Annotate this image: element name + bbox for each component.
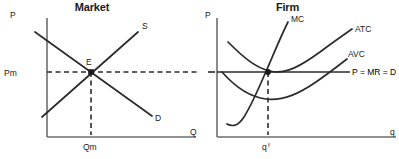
marginal-cost-curve xyxy=(227,22,288,126)
equilibrium-point-marker xyxy=(88,69,94,75)
firm-quantity-tick-label: qf xyxy=(262,142,270,152)
market-price-tick-label: Pm xyxy=(4,68,17,78)
supply-curve-label: S xyxy=(142,21,148,31)
average-total-cost-curve xyxy=(228,29,352,72)
average-total-cost-label: ATC xyxy=(355,24,371,34)
average-variable-cost-curve xyxy=(222,59,347,99)
firm-y-axis-label: P xyxy=(205,10,211,20)
firm-panel: Firm P q qf MC ATC xyxy=(200,0,399,159)
market-panel: Market P Q Pm Qm E S D xyxy=(0,0,200,159)
firm-quantity-tick-subscript: f xyxy=(268,142,270,148)
price-marginal-revenue-demand-label: P = MR = D xyxy=(352,67,396,77)
market-quantity-tick-label: Qm xyxy=(83,142,97,152)
profit-maximizing-point-marker xyxy=(265,69,271,75)
average-variable-cost-label: AVC xyxy=(348,49,365,59)
firm-x-axis-label: q xyxy=(390,127,395,137)
perfect-competition-figure: Market P Q Pm Qm E S D xyxy=(0,0,399,159)
market-plot: P Q Pm Qm E S D xyxy=(0,0,200,159)
equilibrium-label: E xyxy=(86,57,92,67)
market-y-axis-label: P xyxy=(10,10,16,20)
firm-plot: P q qf MC ATC AVC P = MR = D xyxy=(200,0,399,159)
marginal-cost-label: MC xyxy=(291,14,304,24)
demand-curve-label: D xyxy=(155,113,161,123)
market-x-axis-label: Q xyxy=(190,127,197,137)
firm-quantity-tick-letter: q xyxy=(262,142,267,152)
